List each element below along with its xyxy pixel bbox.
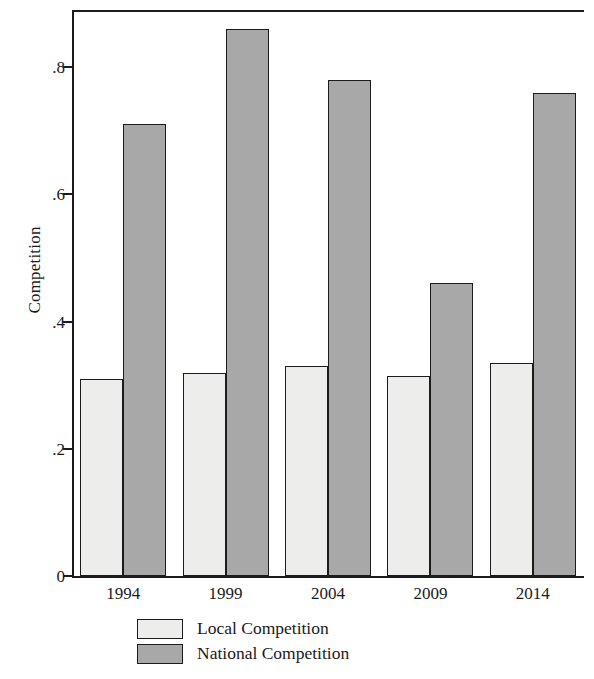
- bar-local-2009: [387, 376, 430, 576]
- x-tick-label-2004: 2004: [311, 584, 345, 604]
- y-tick-label: .4: [52, 313, 65, 330]
- bar-local-1994: [80, 379, 123, 576]
- y-axis-line: [72, 10, 74, 578]
- x-tick-label-1999: 1999: [209, 584, 243, 604]
- national-swatch: [137, 644, 183, 664]
- bar-national-1994: [123, 124, 166, 576]
- legend-label: National Competition: [197, 643, 349, 664]
- y-axis-title: Competition: [25, 160, 45, 380]
- legend-item: National Competition: [137, 643, 457, 664]
- bar-national-2004: [328, 80, 371, 576]
- chart-legend: Local CompetitionNational Competition: [0, 618, 594, 664]
- x-tick-label-1994: 1994: [106, 584, 140, 604]
- y-tick-label: .2: [52, 440, 65, 457]
- bar-local-2004: [285, 366, 328, 576]
- y-tick-label: .8: [52, 59, 65, 76]
- plot-area: 0.2.4.6.8: [72, 10, 584, 578]
- bar-national-1999: [226, 29, 269, 576]
- bar-national-2009: [430, 283, 473, 576]
- plot-frame-top: [72, 10, 584, 12]
- x-tick-label-2014: 2014: [516, 584, 550, 604]
- bar-local-2014: [490, 363, 533, 576]
- y-tick-label: .6: [52, 186, 65, 203]
- x-axis-line: [72, 576, 584, 578]
- y-tick-label: 0: [57, 568, 66, 585]
- bar-national-2014: [533, 93, 576, 576]
- legend-label: Local Competition: [197, 618, 329, 639]
- legend-item: Local Competition: [137, 618, 457, 639]
- bar-chart-figure: Competition 0.2.4.6.8 199419992004200920…: [0, 0, 594, 679]
- x-tick-label-2009: 2009: [413, 584, 447, 604]
- bar-local-1999: [183, 373, 226, 577]
- local-swatch: [137, 619, 183, 639]
